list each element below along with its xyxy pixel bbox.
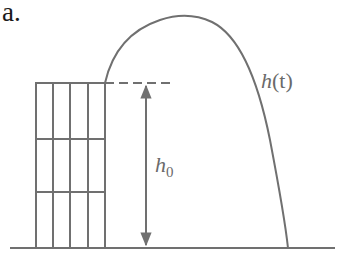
building bbox=[36, 83, 105, 248]
height-label-var: h bbox=[155, 152, 166, 177]
height-label: h0 bbox=[155, 152, 174, 180]
trajectory-label-arg: (t) bbox=[272, 68, 293, 93]
trajectory-label-var: h bbox=[261, 68, 272, 93]
trajectory-label: h(t) bbox=[261, 68, 293, 93]
trajectory-curve bbox=[105, 16, 288, 248]
projectile-diagram: a. h0 h(t) bbox=[0, 0, 337, 263]
panel-label: a. bbox=[2, 0, 21, 27]
height-label-subscript: 0 bbox=[166, 164, 174, 180]
